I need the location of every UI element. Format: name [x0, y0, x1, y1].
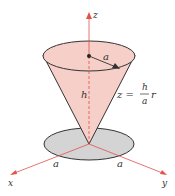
radius-label: a — [103, 51, 109, 62]
equation-numerator: h — [142, 82, 148, 92]
x-axis-label: x — [8, 178, 13, 188]
y-axis-label: y — [161, 178, 168, 188]
z-axis-label: z — [92, 10, 98, 20]
equation-lhs: z = — [116, 89, 134, 100]
height-label: h — [81, 89, 87, 100]
y-axis-arrow — [160, 170, 167, 175]
equation-denominator: a — [142, 96, 147, 106]
base-label-left: a — [53, 158, 59, 169]
z-axis-arrow — [86, 12, 92, 19]
cone-diagram: z a h z = h a r a a x y — [0, 0, 175, 196]
equation-variable: r — [151, 89, 157, 100]
x-axis-arrow — [10, 170, 17, 175]
base-label-right: a — [117, 158, 123, 169]
